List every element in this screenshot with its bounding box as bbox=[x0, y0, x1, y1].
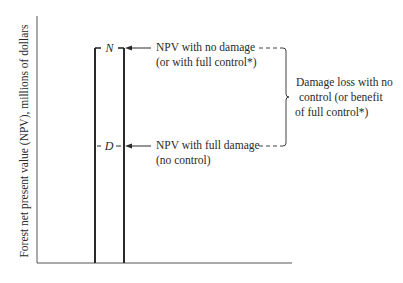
brace-label-line3: of full control*) bbox=[295, 106, 369, 119]
npv-bar bbox=[95, 48, 124, 263]
marker-no-damage: N bbox=[104, 41, 114, 55]
diagram-canvas: Forest net present value (NPV), millions… bbox=[0, 0, 403, 283]
full-damage-label-line1: NPV with full damage bbox=[156, 139, 260, 152]
full-damage-label-line2: (no control) bbox=[156, 154, 211, 167]
y-axis-label: Forest net present value (NPV), millions… bbox=[18, 24, 31, 258]
no-damage-label-line2: (or with full control*) bbox=[156, 56, 257, 69]
no-damage-label-line1: NPV with no damage bbox=[156, 41, 255, 54]
marker-full-damage: D bbox=[104, 139, 114, 153]
brace-label-line1: Damage loss with no bbox=[296, 76, 393, 89]
brace-label-line2: control (or benefit bbox=[299, 91, 383, 104]
arrow-full-damage bbox=[125, 144, 151, 149]
arrow-no-damage bbox=[125, 46, 151, 51]
damage-brace bbox=[259, 48, 289, 146]
